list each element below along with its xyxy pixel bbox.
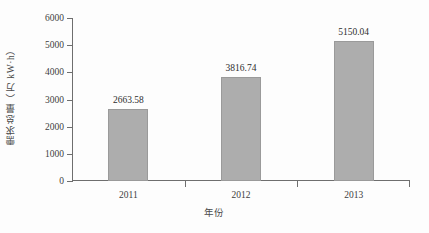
y-tick-label: 4000 bbox=[45, 67, 64, 77]
y-tick-mark bbox=[67, 72, 73, 73]
y-tick-mark bbox=[67, 154, 73, 155]
bar bbox=[334, 41, 374, 181]
bar-value-label: 2663.58 bbox=[113, 95, 144, 105]
x-category-label: 2011 bbox=[119, 190, 138, 200]
plot-area: 0100020003000400050006000 2663.583816.74… bbox=[72, 18, 410, 181]
y-tick-mark bbox=[67, 100, 73, 101]
x-category-label: 2012 bbox=[232, 190, 251, 200]
bar-value-label: 5150.04 bbox=[338, 27, 369, 37]
bar-chart-figure: 需求总量（万 kW·h） 0100020003000400050006000 2… bbox=[0, 0, 429, 233]
y-tick-label: 1000 bbox=[45, 149, 64, 159]
x-axis-title: 年份 bbox=[0, 205, 429, 219]
x-category-label: 2013 bbox=[344, 190, 363, 200]
x-tick-mark bbox=[297, 181, 298, 187]
y-tick-mark bbox=[67, 127, 73, 128]
y-tick-label: 5000 bbox=[45, 40, 64, 50]
y-tick-mark bbox=[67, 181, 73, 182]
x-tick-mark bbox=[409, 181, 410, 187]
bar bbox=[221, 77, 261, 181]
bar bbox=[108, 109, 148, 181]
x-tick-mark bbox=[185, 181, 186, 187]
bar-value-label: 3816.74 bbox=[226, 63, 257, 73]
y-axis-title: 需求总量（万 kW·h） bbox=[0, 0, 22, 190]
y-tick-label: 2000 bbox=[45, 122, 64, 132]
y-tick-label: 6000 bbox=[45, 13, 64, 23]
y-tick-label: 3000 bbox=[45, 95, 64, 105]
y-tick-mark bbox=[67, 18, 73, 19]
y-tick-label: 0 bbox=[59, 176, 64, 186]
y-tick-mark bbox=[67, 45, 73, 46]
y-axis-title-text: 需求总量（万 kW·h） bbox=[4, 44, 18, 145]
